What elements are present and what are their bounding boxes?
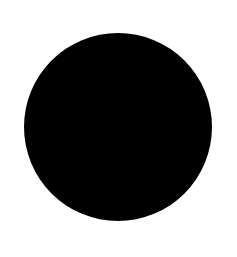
image-canvas [0, 0, 237, 257]
black-circle-core [27, 36, 209, 218]
